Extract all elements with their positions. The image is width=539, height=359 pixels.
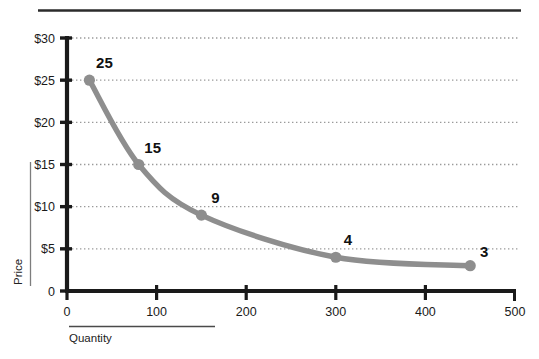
point-value-label-3: 3 <box>480 243 488 260</box>
data-point-labels: 2515943 <box>96 54 488 260</box>
data-point-25 <box>84 75 95 86</box>
y-tick-label-$20: $20 <box>34 116 55 130</box>
point-value-label-25: 25 <box>96 54 113 71</box>
y-tick-label-0: 0 <box>48 285 55 299</box>
data-point-4 <box>330 252 341 263</box>
x-tick-label-400: 400 <box>415 305 436 319</box>
demand-curve-figure: 0$5$10$15$20$25$30 0100200300400500 2515… <box>0 0 539 359</box>
y-tick-label-$30: $30 <box>34 32 55 46</box>
point-value-label-15: 15 <box>144 139 161 156</box>
chart-canvas: 0$5$10$15$20$25$30 0100200300400500 2515… <box>0 0 539 359</box>
x-axis-tick-labels: 0100200300400500 <box>64 305 526 319</box>
x-tick-label-300: 300 <box>325 305 346 319</box>
x-tick-label-200: 200 <box>236 305 257 319</box>
y-tick-label-$15: $15 <box>34 158 55 172</box>
y-tick-label-$5: $5 <box>41 242 55 256</box>
y-axis-title: Price <box>12 259 24 285</box>
y-tick-label-$10: $10 <box>34 200 55 214</box>
y-axis-tick-labels: 0$5$10$15$20$25$30 <box>34 32 55 299</box>
x-axis-title: Quantity <box>69 332 112 344</box>
data-point-15 <box>133 159 144 170</box>
point-value-label-4: 4 <box>344 231 353 248</box>
x-tick-label-100: 100 <box>146 305 167 319</box>
data-point-9 <box>196 210 207 221</box>
demand-curve <box>89 80 470 266</box>
point-value-label-9: 9 <box>211 189 219 206</box>
gridlines <box>72 38 518 249</box>
data-point-3 <box>465 260 476 271</box>
x-tick-label-0: 0 <box>64 305 71 319</box>
x-tick-label-500: 500 <box>505 305 526 319</box>
y-tick-label-$25: $25 <box>34 74 55 88</box>
